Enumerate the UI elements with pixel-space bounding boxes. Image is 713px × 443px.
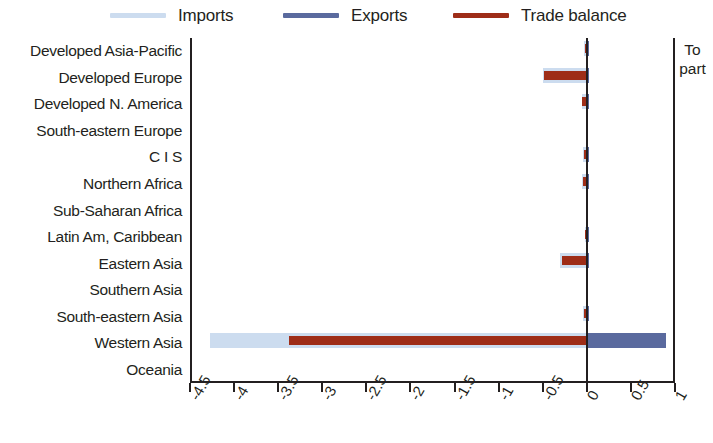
plot-area xyxy=(190,38,675,383)
trade-balance-chart: Imports Exports Trade balance Developed … xyxy=(0,0,713,443)
side-annotation-line1: To xyxy=(672,40,713,59)
legend-item-trade-balance: Trade balance xyxy=(453,0,626,30)
side-annotation-line2: part xyxy=(672,59,713,78)
x-axis: -4.5-4-3.5-3-2.5-2-1.5-1-0.500.51 xyxy=(190,383,675,443)
plot-frame xyxy=(190,38,675,383)
x-axis-tick-label: 0 xyxy=(584,388,601,403)
category-label: Oceania xyxy=(126,362,182,378)
legend-swatch-exports xyxy=(283,13,339,18)
legend-label-exports: Exports xyxy=(351,7,407,24)
category-label: South-eastern Asia xyxy=(56,309,182,325)
legend-label-trade-balance: Trade balance xyxy=(521,7,626,24)
category-label: Developed Europe xyxy=(58,70,182,86)
side-annotation: To part xyxy=(672,40,713,78)
legend-label-imports: Imports xyxy=(178,7,233,24)
category-label: Western Asia xyxy=(95,335,182,351)
x-axis-tick-label: 1 xyxy=(672,388,689,403)
category-label: Southern Asia xyxy=(89,282,182,298)
category-label: Latin Am, Caribbean xyxy=(47,229,182,245)
category-label: Developed N. America xyxy=(34,96,182,112)
legend-swatch-trade-balance xyxy=(453,13,509,18)
x-axis-tick-label: -3 xyxy=(319,383,339,402)
x-axis-tick-label: -2 xyxy=(407,383,427,402)
category-label: South-eastern Europe xyxy=(36,123,182,139)
x-axis-tick-label: -4 xyxy=(231,383,251,402)
category-label: Developed Asia-Pacific xyxy=(30,43,182,59)
category-label: C I S xyxy=(149,149,182,165)
legend-item-imports: Imports xyxy=(110,0,233,30)
legend-item-exports: Exports xyxy=(283,0,407,30)
legend-swatch-imports xyxy=(110,13,166,18)
category-axis-labels: Developed Asia-PacificDeveloped EuropeDe… xyxy=(0,38,186,383)
category-label: Sub-Saharan Africa xyxy=(53,203,182,219)
chart-legend: Imports Exports Trade balance xyxy=(0,0,713,30)
category-label: Northern Africa xyxy=(83,176,182,192)
x-axis-tick-label: -1 xyxy=(496,383,516,402)
category-label: Eastern Asia xyxy=(99,256,182,272)
